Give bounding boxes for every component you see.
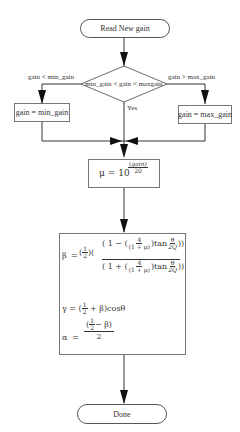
mu-calc-box: μ = 10 (gain)20 bbox=[88, 159, 160, 188]
end-terminal: Done bbox=[77, 404, 167, 424]
edge-label-yes: Yes bbox=[127, 104, 137, 112]
end-label: Done bbox=[113, 410, 130, 419]
mu-exponent: (gain)20 bbox=[128, 161, 148, 174]
edge-label-left: gain < min_gain bbox=[28, 73, 74, 81]
flowchart-connectors bbox=[0, 0, 240, 432]
decision-label: min_gain < gain < maxgain bbox=[85, 80, 163, 88]
mu-formula: μ = 10 bbox=[99, 168, 130, 178]
start-label: Read New gain bbox=[100, 24, 149, 33]
clamp-max-box: gain = max_gain bbox=[178, 105, 232, 124]
start-terminal: Read New gain bbox=[80, 19, 170, 38]
gamma-formula: γ = (12 + β)cosθ bbox=[62, 302, 125, 315]
edge-label-right: gain > max_gain bbox=[168, 73, 215, 81]
clamp-min-box: gain = min_gain bbox=[14, 103, 70, 122]
